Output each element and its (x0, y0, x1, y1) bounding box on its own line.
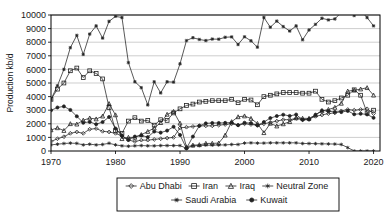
ytick-label-6000: 6000 (26, 65, 46, 75)
xtick-label-2020: 2020 (364, 157, 384, 167)
legend-label: Neutral Zone (276, 181, 328, 191)
xtick-label-2010: 2010 (299, 157, 319, 167)
chart-canvas: 0100020003000400050006000700080009000100… (0, 0, 392, 217)
ytick-label-7000: 7000 (26, 51, 46, 61)
ytick-label-8000: 8000 (26, 37, 46, 47)
legend-label: Iran (203, 181, 219, 191)
ytick-label-5000: 5000 (26, 78, 46, 88)
ytick-label-9000: 9000 (26, 24, 46, 34)
legend-label: Kuwait (260, 195, 288, 205)
production-line-chart: 0100020003000400050006000700080009000100… (0, 0, 392, 217)
y-axis-title: Production kb/d (5, 53, 15, 112)
xtick-label-2000: 2000 (235, 157, 255, 167)
legend-label: Iraq (239, 181, 255, 191)
xtick-label-1980: 1980 (105, 157, 125, 167)
legend-label: Saudi Arabia (185, 195, 236, 205)
ytick-label-2000: 2000 (26, 119, 46, 129)
ytick-label-4000: 4000 (26, 92, 46, 102)
ytick-label-0: 0 (41, 146, 46, 156)
ytick-label-3000: 3000 (26, 105, 46, 115)
ytick-label-10000: 10000 (21, 10, 46, 20)
legend-label: Abu Dhabi (140, 181, 182, 191)
ytick-label-1000: 1000 (26, 133, 46, 143)
xtick-label-1970: 1970 (41, 157, 61, 167)
xtick-label-1990: 1990 (170, 157, 190, 167)
